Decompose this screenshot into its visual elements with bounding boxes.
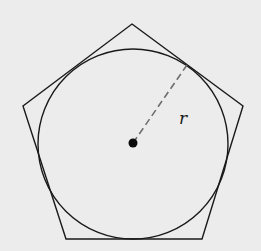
radius-label: r [179, 108, 188, 128]
center-point [129, 139, 138, 148]
pentagon-shape [23, 24, 243, 239]
diagram-canvas: r [0, 0, 261, 251]
radius-dashed-line [133, 65, 187, 143]
pentagon-incircle-figure: r [0, 0, 261, 251]
